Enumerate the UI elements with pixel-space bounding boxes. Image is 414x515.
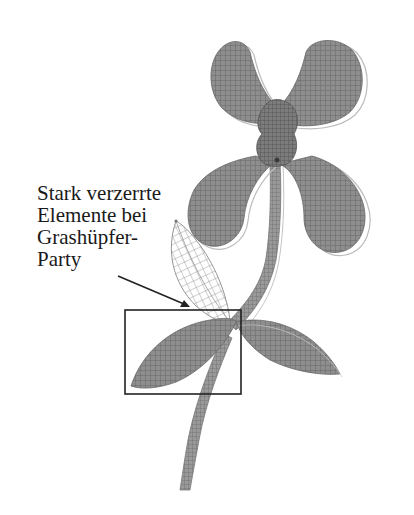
leaf-right bbox=[236, 320, 342, 377]
annotation-line-3: Grashüpfer- bbox=[37, 226, 161, 248]
annotation-line-1: Stark verzerrte bbox=[37, 182, 161, 204]
annotation-line-2: Elemente bei bbox=[37, 204, 161, 226]
annotation-label: Stark verzerrte Elemente bei Grashüpfer-… bbox=[37, 182, 161, 270]
annotation-line-4: Party bbox=[37, 248, 161, 270]
